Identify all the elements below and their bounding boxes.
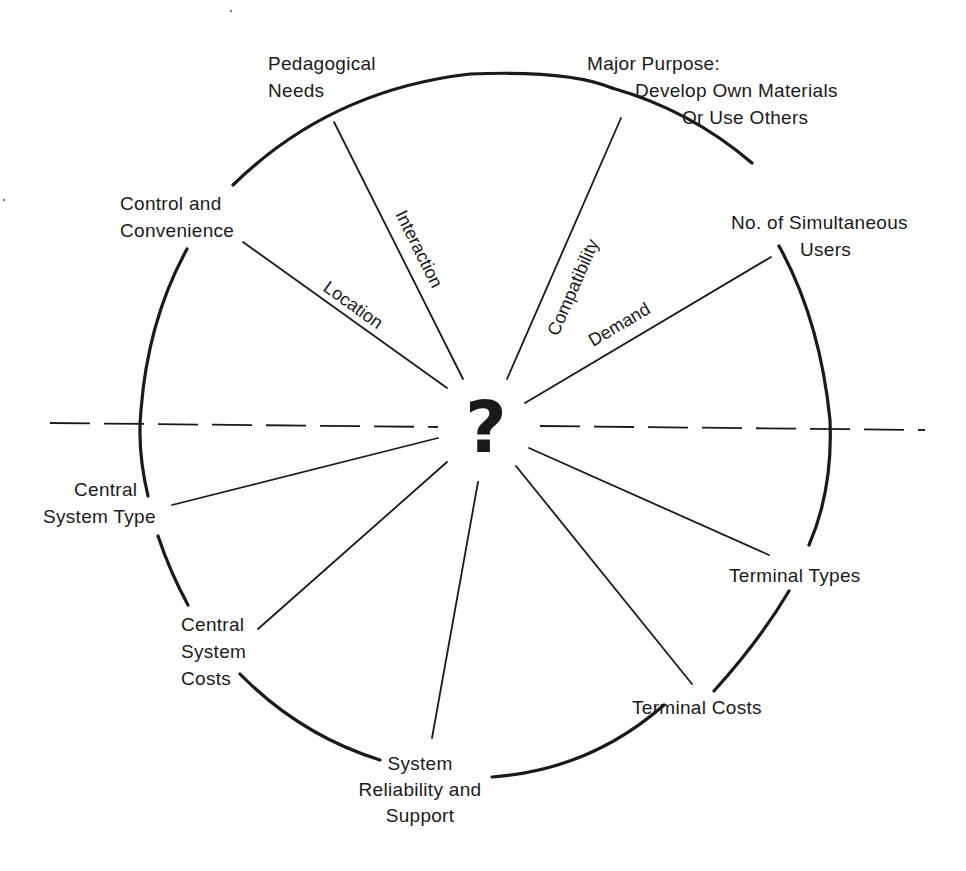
scan-speck [230,10,232,12]
label-line: Central [74,479,137,500]
spoke-system-reliability [432,482,478,738]
label-line: Terminal Costs [632,697,762,718]
label-line: Terminal Types [729,565,861,586]
spoke-terminal-costs [516,466,692,684]
label-line: Users [800,239,851,260]
label-line: Central [181,614,244,635]
horizon-dashed-line-left [50,423,438,427]
horizon-dashed-line-right [540,426,925,430]
arc-bottom-left [240,674,380,760]
label-line: Needs [268,80,324,101]
spoke-terminal-types [529,448,769,555]
label-line: Or Use Others [682,107,808,128]
label-line: Control and [120,193,222,214]
spoke-central-system-type [172,438,438,505]
label-central-system-type: Central System Type [43,479,156,527]
label-line: Reliability and [359,779,482,800]
spoke-pedagogical-needs [334,122,463,379]
label-line: Convenience [120,220,234,241]
label-line: Support [386,805,455,826]
arc-right-lower [714,591,789,691]
label-line: Develop Own Materials [635,80,838,101]
label-simultaneous-users: No. of Simultaneous Users [731,212,908,260]
factor-wheel-diagram: ? Location Interaction Compatibility Dem… [0,0,966,871]
arc-right [779,246,830,545]
label-system-reliability: System Reliability and Support [359,753,482,826]
spoke-label-interaction: Interaction [391,207,446,291]
label-line: Major Purpose: [587,53,720,74]
label-central-system-costs: Central System Costs [181,614,246,689]
spoke-central-system-costs [258,462,447,629]
label-line: System Type [43,506,156,527]
label-line: Pedagogical [268,53,376,74]
label-line: No. of Simultaneous [731,212,908,233]
label-line: Costs [181,668,231,689]
label-terminal-costs: Terminal Costs [632,697,762,718]
label-line: System [387,753,452,774]
arc-left [140,249,187,496]
arc-left-lower [158,536,188,605]
label-pedagogical-needs: Pedagogical Needs [268,53,376,101]
spoke-label-demand: Demand [585,299,654,351]
center-question-mark: ? [465,385,507,469]
scan-speck [3,199,5,201]
spoke-label-compatibility: Compatibility [543,236,602,338]
label-control-convenience: Control and Convenience [120,193,234,241]
label-line: System [181,641,246,662]
label-terminal-types: Terminal Types [729,565,861,586]
